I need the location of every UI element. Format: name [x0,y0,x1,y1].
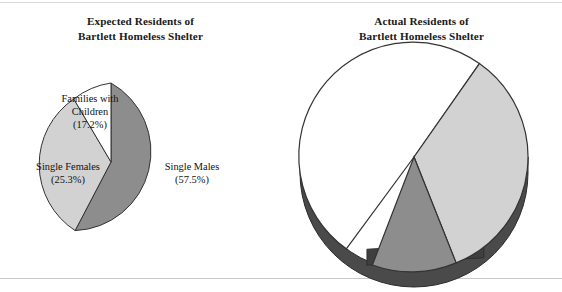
chart-panel-actual: Actual Residents of Bartlett Homeless Sh… [281,0,562,292]
pie-label-expected-single-females-line1: Single Females [13,160,123,173]
chart-panel-expected: Expected Residents of Bartlett Homeless … [0,0,281,292]
pie-label-expected-single-females: Single Females (25.3%) [13,160,123,186]
pie-label-expected-families-value: (17.2%) [36,118,144,131]
pie-label-expected-single-males: Single Males (57.5%) [140,160,244,186]
pie-label-expected-families-line1: Families with [36,92,144,105]
figure-container: Expected Residents of Bartlett Homeless … [0,0,562,292]
pie-label-expected-families: Families with Children (17.2%) [36,92,144,131]
pie-chart-actual [281,0,562,292]
pie-label-expected-single-males-value: (57.5%) [140,173,244,186]
pie-label-expected-single-females-value: (25.3%) [13,173,123,186]
pie-chart-expected [0,0,281,292]
pie-label-expected-families-line2: Children [36,105,144,118]
pie-label-expected-single-males-line1: Single Males [140,160,244,173]
